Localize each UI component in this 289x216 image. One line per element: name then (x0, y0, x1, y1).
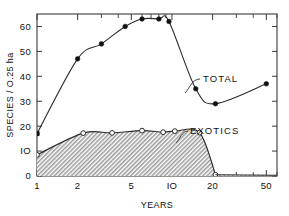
exotics-data-point (35, 152, 40, 157)
total-data-point (167, 19, 172, 24)
species-vs-years-chart: 0IO2030405060 125IO2050 YEARS SPECIES / … (0, 0, 289, 216)
total-data-point (75, 57, 80, 62)
x-tick-label: IO (167, 180, 178, 191)
y-tick-label: 30 (20, 96, 31, 107)
exotics-data-point (161, 130, 166, 135)
total-series-label: TOTAL (203, 73, 238, 84)
y-axis-title: SPECIES / O.25 ha (5, 52, 15, 137)
exotics-data-point (140, 128, 145, 133)
figure-container: 0IO2030405060 125IO2050 YEARS SPECIES / … (0, 0, 289, 216)
y-tick-label: 40 (20, 71, 31, 82)
x-tick-labels: 125IO2050 (34, 180, 272, 191)
x-tick-label: 1 (34, 180, 40, 191)
total-data-point (99, 42, 104, 47)
total-data-point (140, 17, 145, 22)
y-tick-label: 50 (20, 46, 31, 57)
total-data-point (213, 101, 218, 106)
x-tick-label: 5 (129, 180, 135, 191)
y-tick-label: 20 (20, 121, 31, 132)
total-data-point (157, 17, 162, 22)
y-tick-label: 0 (25, 170, 31, 181)
y-tick-labels: 0IO2030405060 (20, 21, 31, 182)
exotics-data-point (81, 131, 86, 136)
exotics-tail (215, 175, 277, 176)
total-origin-marker (35, 131, 40, 136)
y-tick-label: IO (20, 145, 31, 156)
exotics-filled-area (37, 129, 277, 176)
exotics-data-point (172, 129, 177, 134)
x-tick-label: 2 (75, 180, 81, 191)
total-data-point (264, 81, 269, 86)
exotics-data-point (110, 130, 115, 135)
total-data-point (193, 86, 198, 91)
x-tick-label: 20 (207, 180, 218, 191)
x-tick-label: 50 (261, 180, 272, 191)
y-tick-label: 60 (20, 21, 31, 32)
total-data-point (123, 24, 128, 29)
exotics-series-label: EXOTICS (190, 125, 239, 136)
x-axis-title: YEARS (141, 200, 174, 210)
